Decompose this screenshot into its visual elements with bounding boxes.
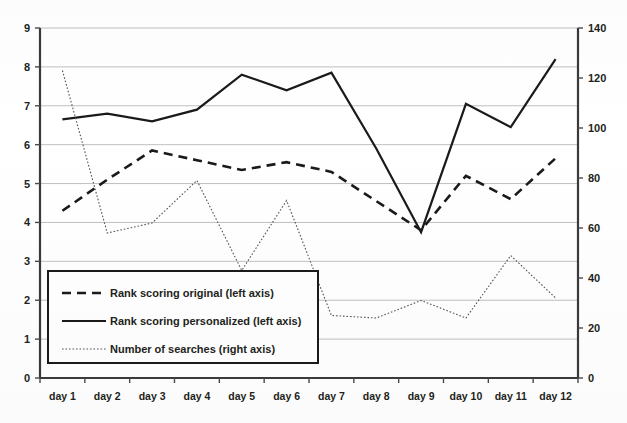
x-axis-category-label: day 3: [139, 390, 166, 402]
x-axis-category-label: day 7: [318, 390, 345, 402]
left-axis-tick-label: 6: [24, 139, 30, 151]
right-axis-tick-label: 120: [588, 72, 606, 84]
left-axis-tick-label: 9: [24, 22, 30, 34]
left-axis-tick-label: 0: [24, 372, 30, 384]
right-axis-tick-label: 20: [588, 322, 600, 334]
right-axis-tick-label: 140: [588, 22, 606, 34]
left-axis-tick-label: 5: [24, 178, 30, 190]
right-axis-tick-label: 100: [588, 122, 606, 134]
x-axis-category-label: day 1: [49, 390, 76, 402]
right-axis-tick-label: 0: [588, 372, 594, 384]
x-axis-category-label: day 8: [363, 390, 390, 402]
x-axis-category-label: day 11: [495, 390, 527, 402]
x-axis-category-label: day 4: [183, 390, 210, 402]
left-axis-tick-label: 7: [24, 100, 30, 112]
x-axis-category-label: day 6: [273, 390, 300, 402]
legend-label: Rank scoring original (left axis): [110, 287, 274, 299]
right-axis-tick-label: 60: [588, 222, 600, 234]
x-axis-category-label: day 2: [94, 390, 121, 402]
line-chart: 0123456789 020406080100120140 day 1day 2…: [0, 0, 627, 423]
left-axis-tick-label: 3: [24, 255, 30, 267]
legend-label: Rank scoring personalized (left axis): [110, 315, 302, 327]
legend-label: Number of searches (right axis): [110, 343, 275, 355]
right-axis-tick-label: 40: [588, 272, 600, 284]
left-axis-tick-label: 2: [24, 294, 30, 306]
x-axis-category-label: day 5: [228, 390, 255, 402]
x-axis-category-label: day 12: [539, 390, 572, 402]
x-axis-category-label: day 9: [408, 390, 435, 402]
x-axis-category-label: day 10: [450, 390, 483, 402]
left-axis-tick-label: 1: [24, 333, 30, 345]
chart-container: 0123456789 020406080100120140 day 1day 2…: [0, 0, 627, 423]
left-axis-tick-label: 8: [24, 61, 30, 73]
left-axis-tick-label: 4: [24, 216, 31, 228]
chart-legend: Rank scoring original (left axis)Rank sc…: [48, 271, 318, 363]
right-axis-tick-label: 80: [588, 172, 600, 184]
